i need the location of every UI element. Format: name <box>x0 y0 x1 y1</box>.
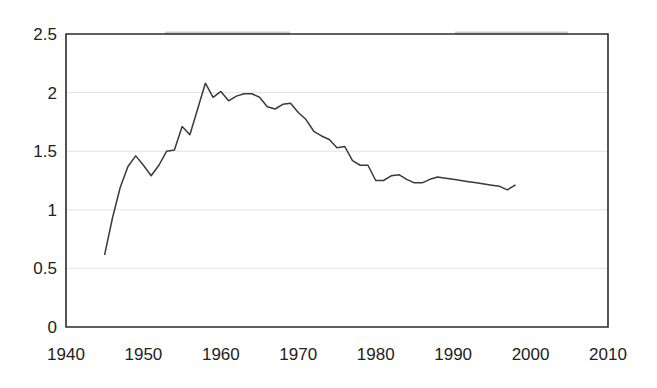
chart-container: 00.511.522.5 194019501960197019801990200… <box>0 0 657 388</box>
y-axis-tick-label: 0 <box>48 318 57 337</box>
x-axis-tick-label: 2000 <box>512 345 550 364</box>
x-axis-tick-label: 1960 <box>202 345 240 364</box>
grid-lines <box>66 93 608 269</box>
x-axis-tick-label: 1970 <box>279 345 317 364</box>
data-series-group <box>105 83 515 254</box>
x-axis-tick-label: 1950 <box>125 345 163 364</box>
y-axis-tick-label: 2.5 <box>33 25 57 44</box>
data-line-series-1 <box>105 83 515 254</box>
line-chart: 00.511.522.5 194019501960197019801990200… <box>0 0 657 388</box>
y-axis-tick-label: 0.5 <box>33 259 57 278</box>
x-axis-tick-label: 1990 <box>434 345 472 364</box>
x-axis-tick-label: 1940 <box>47 345 85 364</box>
y-axis-tick-label: 2 <box>48 84 57 103</box>
x-axis-ticks: 19401950196019701980199020002010 <box>47 345 627 364</box>
y-axis-ticks: 00.511.522.5 <box>33 25 57 337</box>
plot-frame <box>66 34 608 327</box>
x-axis-tick-label: 1980 <box>357 345 395 364</box>
y-axis-tick-label: 1 <box>48 201 57 220</box>
y-axis-tick-label: 1.5 <box>33 142 57 161</box>
x-axis-tick-label: 2010 <box>589 345 627 364</box>
